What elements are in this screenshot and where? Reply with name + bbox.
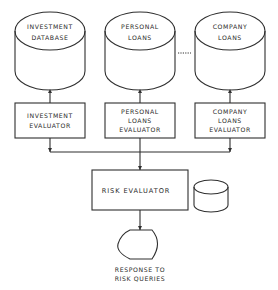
cylinder-body (194, 187, 228, 212)
evaluator-label-line2: EVALUATOR (29, 122, 71, 129)
display-output-shape (118, 230, 158, 259)
output-label-line2: RISK QUERIES (115, 275, 166, 282)
evaluator-label-line1: INVESTMENT (27, 112, 73, 119)
database-label-line1: INVESTMENT (27, 23, 73, 30)
database-label-line2: LOANS (128, 34, 152, 41)
arrowhead-icon (228, 148, 232, 152)
database-label-line2: LOANS (218, 34, 242, 41)
evaluator-company-loans: COMPANY LOANS EVALUATOR (195, 103, 265, 138)
evaluator-personal-loans: PERSONAL LOANS EVALUATOR (105, 103, 175, 138)
database-label-line1: PERSONAL (121, 23, 159, 30)
cylinder-top (15, 12, 85, 50)
cylinder-top (194, 180, 228, 194)
arrowhead-icon (48, 148, 52, 152)
output-label-line1: RESPONSE TO (115, 266, 165, 273)
collector-bus (48, 138, 232, 170)
database-investment: INVESTMENT DATABASE (15, 12, 85, 90)
database-company-loans: COMPANY LOANS (195, 12, 265, 90)
database-personal-loans: PERSONAL LOANS (105, 12, 175, 90)
evaluator-to-database-arrows (48, 89, 232, 103)
database-label-line1: COMPANY (213, 23, 248, 30)
cylinder-top (105, 12, 175, 50)
evaluator-investment: INVESTMENT EVALUATOR (15, 103, 85, 138)
arrowhead-icon (138, 166, 142, 170)
risk-evaluator: RISK EVALUATOR (92, 170, 188, 210)
side-storage-cylinder (194, 180, 228, 212)
risk-evaluator-label: RISK EVALUATOR (102, 187, 170, 195)
evaluator-label-line2: LOANS (128, 117, 152, 124)
evaluator-label-line2: LOANS (218, 117, 242, 124)
evaluator-box (15, 103, 85, 138)
evaluator-label-line3: EVALUATOR (119, 126, 161, 133)
risk-evaluation-diagram: INVESTMENT DATABASE PERSONAL LOANS COMPA… (0, 0, 278, 290)
cylinder-top (195, 12, 265, 50)
evaluator-label-line3: EVALUATOR (209, 126, 251, 133)
database-label-line2: DATABASE (31, 34, 68, 41)
evaluator-label-line1: PERSONAL (121, 108, 159, 115)
evaluator-label-line1: COMPANY (213, 108, 248, 115)
arrowhead-icon (138, 226, 142, 230)
